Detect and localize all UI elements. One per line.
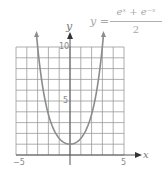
x-tick-label: 5 (121, 158, 126, 167)
equation-label: y = eˣ + e⁻ˣ 2 (88, 4, 164, 40)
y-axis-arrow-icon (67, 32, 73, 39)
axes (16, 32, 142, 165)
equation-denominator: 2 (110, 24, 162, 35)
curve-arrow-icon (34, 31, 39, 37)
fraction-bar (110, 21, 162, 22)
equation-numerator: eˣ + e⁻ˣ (110, 6, 162, 17)
x-tick-label: −5 (13, 158, 25, 167)
x-axis-label: x (143, 149, 149, 160)
equation-lhs: y = (90, 15, 109, 28)
x-axis-arrow-icon (135, 152, 142, 158)
y-tick-label: 10 (59, 42, 69, 51)
y-tick-label: 5 (63, 96, 68, 105)
y-axis-label: y (65, 20, 73, 33)
